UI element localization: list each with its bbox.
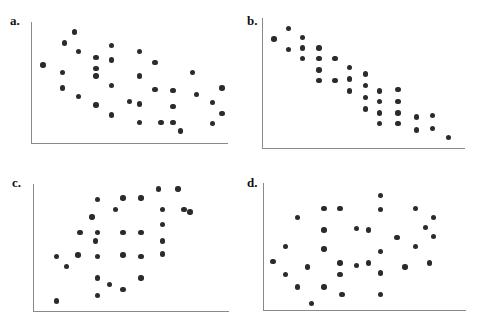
data-point — [413, 244, 418, 249]
data-point — [283, 244, 288, 249]
data-point — [366, 260, 371, 265]
data-point — [337, 206, 342, 211]
data-point — [321, 206, 326, 211]
data-point — [378, 270, 383, 275]
data-point — [339, 292, 344, 297]
data-point — [309, 301, 314, 306]
data-point — [378, 249, 383, 254]
data-point — [366, 227, 371, 232]
data-point — [337, 260, 342, 265]
data-point — [378, 207, 383, 212]
y-axis-d — [263, 183, 264, 310]
data-point — [394, 235, 399, 240]
data-point — [305, 264, 310, 269]
scatterplot-figure: a.b.c.d. — [0, 0, 483, 327]
data-point — [283, 272, 288, 277]
data-point — [427, 260, 432, 265]
data-point — [354, 263, 359, 268]
data-point — [321, 284, 326, 289]
data-point — [354, 226, 359, 231]
data-point — [295, 284, 300, 289]
scatter-panel-d: d. — [0, 0, 483, 327]
data-point — [337, 272, 342, 277]
data-point — [431, 215, 436, 220]
x-axis-d — [263, 310, 466, 311]
data-point — [378, 193, 383, 198]
panel-label-d: d. — [247, 176, 257, 189]
data-point — [423, 225, 428, 230]
data-point — [321, 227, 326, 232]
data-point — [321, 246, 326, 251]
data-point — [378, 292, 383, 297]
data-point — [295, 215, 300, 220]
data-point — [270, 259, 275, 264]
data-point — [431, 234, 436, 239]
data-point — [402, 264, 407, 269]
data-point — [413, 206, 418, 211]
